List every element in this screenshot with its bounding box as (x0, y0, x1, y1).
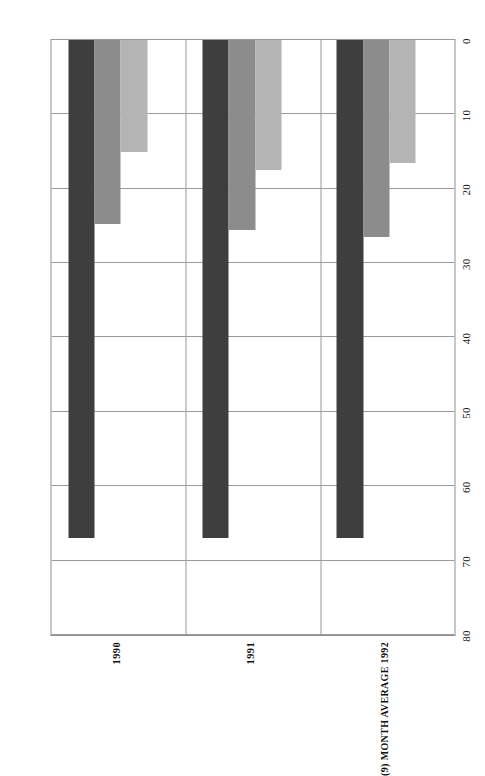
bar-series-3-0 (120, 40, 146, 152)
value-axis-tick-label: 50 (459, 407, 471, 419)
bar-series-2-1 (228, 40, 254, 230)
category-label-0: 1990 (110, 642, 121, 664)
value-axis-tick-label: 40 (459, 333, 471, 345)
bar-series-1-1 (202, 40, 228, 538)
bar-series-2-0 (94, 40, 120, 224)
value-axis-tick-labels: 01020304050607080 (459, 39, 481, 636)
gridline-vertical (51, 560, 454, 561)
bar-series-1-0 (68, 40, 94, 538)
plot-area (50, 39, 455, 636)
category-label-2: (9) MONTH AVERAGE 1992 (379, 642, 390, 776)
category-axis-labels: 19901991(9) MONTH AVERAGE 1992 (50, 636, 455, 684)
gridline-vertical (51, 262, 454, 263)
value-axis-tick-label: 70 (459, 556, 471, 568)
bar-series-2-2 (363, 40, 389, 237)
gridline-horizontal (185, 40, 186, 635)
gridline-horizontal (320, 40, 321, 635)
bar-series-3-1 (255, 40, 281, 170)
value-axis-tick-label: 10 (459, 110, 471, 122)
gridline-vertical (51, 337, 454, 338)
bar-series-3-2 (389, 40, 415, 163)
gridline-vertical (51, 634, 454, 635)
gridline-vertical (51, 411, 454, 412)
value-axis-tick-label: 60 (459, 481, 471, 493)
value-axis-tick-label: 80 (459, 630, 471, 642)
category-label-1: 1991 (245, 642, 256, 664)
gridline-vertical (51, 485, 454, 486)
value-axis-tick-label: 30 (459, 258, 471, 270)
bar-series-1-2 (336, 40, 362, 538)
value-axis-tick-label: 0 (459, 38, 471, 44)
value-axis-tick-label: 20 (459, 184, 471, 196)
